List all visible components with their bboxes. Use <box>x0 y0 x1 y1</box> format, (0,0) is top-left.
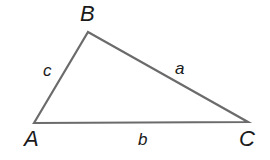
triangle-diagram: B A C c a b <box>0 0 270 160</box>
vertex-label-a: A <box>22 126 39 151</box>
side-label-a: a <box>175 59 184 78</box>
side-label-b: b <box>138 130 147 149</box>
vertex-label-b: B <box>80 1 95 26</box>
triangle-abc <box>34 32 248 123</box>
vertex-label-c: C <box>239 126 255 151</box>
side-label-c: c <box>43 61 52 80</box>
